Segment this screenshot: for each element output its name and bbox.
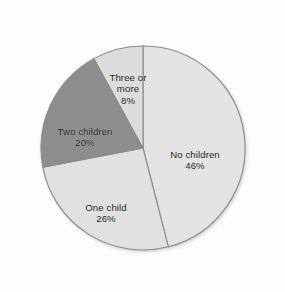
pie-chart-figure: No children 46% One child 26% Two childr… bbox=[0, 0, 285, 292]
pie-chart-canvas bbox=[0, 0, 285, 292]
pie-slice-group bbox=[41, 46, 245, 250]
